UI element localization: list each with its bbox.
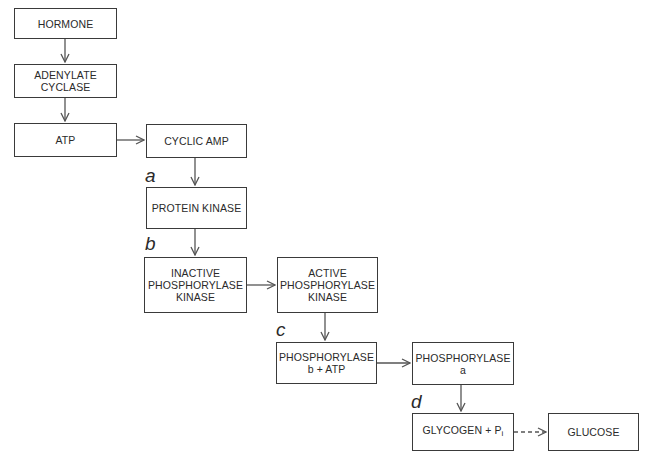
node-hormone: HORMONE (14, 8, 117, 39)
step-label-a: a (145, 166, 156, 185)
node-label: PHOSPHORYLASE (415, 352, 510, 364)
node-label: CYCLIC AMP (164, 135, 229, 147)
node-adenylate-cyclase: ADENYLATE CYCLASE (14, 64, 117, 98)
node-active-phosphorylase-kinase: ACTIVE PHOSPHORYLASE KINASE (277, 257, 378, 313)
node-label: ACTIVE (308, 267, 347, 279)
node-label: PHOSPHORYLASE (148, 279, 243, 291)
node-atp: ATP (14, 123, 117, 157)
node-label: CYCLASE (41, 81, 91, 93)
step-label-c: c (276, 320, 286, 339)
node-label: PHOSPHORYLASE (280, 279, 375, 291)
node-label: b + ATP (308, 363, 346, 375)
node-label: PROTEIN KINASE (152, 202, 242, 214)
node-label: GLYCOGEN + Pi (423, 424, 504, 440)
step-label-b: b (145, 234, 156, 253)
node-cyclic-amp: CYCLIC AMP (146, 124, 247, 158)
node-label: INACTIVE (171, 267, 220, 279)
node-label: a (460, 364, 466, 376)
node-label: PHOSPHORYLASE (279, 351, 374, 363)
node-label: ADENYLATE (34, 69, 97, 81)
node-protein-kinase: PROTEIN KINASE (146, 187, 247, 229)
node-label: HORMONE (38, 18, 94, 30)
node-label: KINASE (308, 291, 347, 303)
node-label: KINASE (176, 291, 215, 303)
node-label: GLUCOSE (567, 426, 619, 438)
node-glycogen: GLYCOGEN + Pi (412, 413, 514, 451)
step-label-d: d (411, 392, 422, 411)
node-phosphorylase-b: PHOSPHORYLASE b + ATP (276, 342, 377, 384)
node-inactive-phosphorylase-kinase: INACTIVE PHOSPHORYLASE KINASE (144, 257, 247, 313)
node-label: ATP (56, 134, 76, 146)
node-glucose: GLUCOSE (548, 413, 639, 451)
node-phosphorylase-a: PHOSPHORYLASE a (412, 342, 514, 385)
